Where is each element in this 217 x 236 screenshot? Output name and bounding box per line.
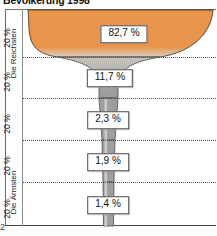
quintile-pct-4: 20 % [2,146,12,186]
value-box-5: 1,4 % [87,196,129,214]
quintile-divider-4 [23,182,216,183]
quintile-pct-3: 20 % [2,104,12,144]
quintile-pct-1: 20 % [2,18,12,58]
quintile-divider-1 [23,57,216,58]
corner-page-mark: 2 [0,222,8,233]
quintile-divider-3 [23,140,216,141]
value-box-1: 82,7 % [100,25,147,43]
quintile-pct-2: 20 % [2,62,12,102]
value-box-4: 1,9 % [87,153,129,171]
quintile-divider-2 [23,98,216,99]
value-box-3: 2,3 % [87,111,129,129]
population-wealth-funnel-chart: Bevölkerung 1998 [0,0,217,236]
value-box-2: 11,7 % [87,69,133,87]
